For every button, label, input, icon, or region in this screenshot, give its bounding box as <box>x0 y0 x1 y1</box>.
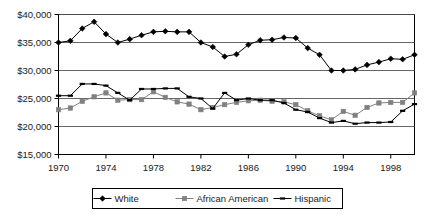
data-point-marker <box>139 88 144 90</box>
x-tick-label: 1970 <box>48 162 69 173</box>
data-point-marker <box>388 121 393 123</box>
data-point-marker <box>376 121 381 123</box>
data-point-marker <box>104 91 108 95</box>
data-point-marker <box>364 121 369 123</box>
data-point-marker <box>341 109 345 113</box>
data-point-marker <box>258 99 263 101</box>
data-point-marker <box>163 87 168 89</box>
x-tick-label: 1986 <box>238 162 259 173</box>
data-point-marker <box>293 109 298 111</box>
data-point-marker <box>412 91 416 95</box>
y-tick-label: $15,000 <box>17 149 51 160</box>
data-point-marker <box>234 99 239 101</box>
data-point-marker <box>163 95 167 99</box>
y-tick-label: $35,000 <box>17 37 51 48</box>
data-point-marker <box>280 197 285 199</box>
legend-label: White <box>115 193 139 204</box>
y-tick-label: $30,000 <box>17 65 51 76</box>
data-point-marker <box>412 103 417 105</box>
data-point-marker <box>198 97 203 99</box>
data-point-marker <box>377 101 381 105</box>
x-tick-label: 1978 <box>143 162 164 173</box>
data-point-marker <box>115 92 120 94</box>
data-point-marker <box>80 83 85 85</box>
data-point-marker <box>329 118 333 122</box>
data-point-marker <box>56 95 61 97</box>
data-point-marker <box>329 121 334 123</box>
chart-legend: WhiteAfrican AmericanHispanic <box>93 189 343 209</box>
data-point-marker <box>187 102 191 106</box>
data-point-marker <box>92 95 96 99</box>
x-tick-label: 1990 <box>285 162 306 173</box>
data-point-marker <box>353 113 357 117</box>
data-point-marker <box>222 92 227 94</box>
data-point-marker <box>281 102 286 104</box>
data-point-marker <box>341 120 346 122</box>
data-point-marker <box>182 196 186 200</box>
legend-label: Hispanic <box>295 193 332 204</box>
data-point-marker <box>294 102 298 106</box>
data-point-marker <box>116 98 120 102</box>
x-tick-label: 1994 <box>333 162 354 173</box>
legend-label: African American <box>197 193 269 204</box>
data-point-marker <box>389 100 393 104</box>
data-point-marker <box>151 90 155 94</box>
data-point-marker <box>400 110 405 112</box>
income-line-chart: $15,000$20,000$25,000$30,000$35,000$40,0… <box>0 0 435 217</box>
data-point-marker <box>127 99 132 101</box>
chart-container: $15,000$20,000$25,000$30,000$35,000$40,0… <box>0 0 435 217</box>
data-point-marker <box>353 123 358 125</box>
data-point-marker <box>400 100 404 104</box>
data-point-marker <box>246 97 251 99</box>
data-point-marker <box>199 108 203 112</box>
y-tick-label: $25,000 <box>17 93 51 104</box>
data-point-marker <box>68 106 72 110</box>
data-point-marker <box>365 105 369 109</box>
data-point-marker <box>305 111 310 113</box>
data-point-marker <box>317 117 322 119</box>
data-point-marker <box>92 83 97 85</box>
y-tick-label: $20,000 <box>17 121 51 132</box>
data-point-marker <box>186 96 191 98</box>
y-tick-label: $40,000 <box>17 9 51 20</box>
data-point-marker <box>210 107 215 109</box>
data-point-marker <box>103 85 108 87</box>
data-point-marker <box>80 99 84 103</box>
x-tick-label: 1974 <box>95 162 116 173</box>
data-point-marker <box>270 99 275 101</box>
data-point-marker <box>175 87 180 89</box>
data-point-marker <box>222 102 226 106</box>
data-point-marker <box>175 100 179 104</box>
data-point-marker <box>68 95 73 97</box>
data-point-marker <box>139 97 143 101</box>
data-point-marker <box>151 88 156 90</box>
x-tick-label: 1982 <box>190 162 211 173</box>
x-tick-label: 1998 <box>380 162 401 173</box>
data-point-marker <box>56 108 60 112</box>
